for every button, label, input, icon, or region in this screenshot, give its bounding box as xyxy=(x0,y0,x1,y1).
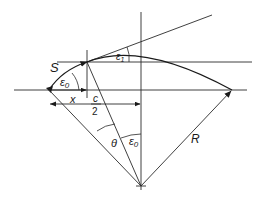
label-r: R xyxy=(191,132,200,146)
left-end-arrow-icon xyxy=(46,86,53,93)
label-c: c xyxy=(93,93,98,104)
label-2: 2 xyxy=(92,106,98,117)
angle-arc-epsilon0-top xyxy=(72,73,79,90)
radius-r-line xyxy=(141,91,231,186)
arc-geometry-diagram: S ε0 ε1 x c 2 θ ε0 R xyxy=(0,0,263,200)
label-epsilon0-top: ε0 xyxy=(60,76,70,90)
main-arc xyxy=(87,55,232,90)
label-epsilon0-bottom: ε0 xyxy=(129,135,139,149)
label-x: x xyxy=(69,93,76,105)
angle-arc-theta xyxy=(97,124,115,131)
angle-arc-epsilon1 xyxy=(127,47,129,62)
label-epsilon1: ε1 xyxy=(116,51,124,63)
label-theta: θ xyxy=(111,137,117,149)
tangent-line xyxy=(87,15,212,62)
label-s: S xyxy=(50,60,59,75)
c-half-left-arrow-icon xyxy=(50,102,56,107)
